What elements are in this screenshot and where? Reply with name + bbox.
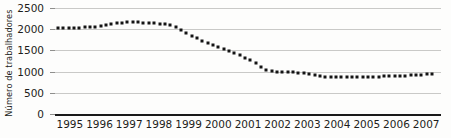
data-point (131, 20, 134, 23)
y-tick-mark-1000 (50, 72, 55, 73)
x-tick-label-1999: 1999 (175, 118, 202, 130)
data-point (345, 76, 348, 79)
y-tick-mark-2000 (50, 29, 55, 30)
y-tick-label-1500: 1500 (0, 44, 44, 56)
data-point (195, 37, 198, 40)
y-tick-label-0: 0 (0, 108, 44, 120)
data-point (174, 26, 177, 29)
data-point (105, 24, 108, 27)
data-point (356, 76, 359, 79)
gridline-2500 (55, 8, 441, 9)
data-point (222, 48, 225, 51)
data-point (329, 76, 332, 79)
x-tick-label-1996: 1996 (86, 118, 113, 130)
y-tick-label-2000: 2000 (0, 23, 44, 35)
data-point (276, 70, 279, 73)
x-tick-label-2007: 2007 (413, 118, 440, 130)
data-point (431, 72, 434, 75)
gridline-2000 (55, 29, 441, 30)
x-tick-label-1997: 1997 (116, 118, 143, 130)
data-point (67, 26, 70, 29)
data-point (281, 70, 284, 73)
data-point (121, 21, 124, 24)
data-point (324, 75, 327, 78)
data-point (217, 46, 220, 49)
data-point (115, 22, 118, 25)
y-tick-label-1000: 1000 (0, 66, 44, 78)
data-point (233, 52, 236, 55)
data-point (270, 70, 273, 73)
plot-area (55, 8, 441, 114)
x-axis-tick-labels: 1995199619971998199920002001200220032004… (55, 118, 441, 136)
data-point (158, 22, 161, 25)
data-point (350, 76, 353, 79)
data-point (56, 26, 59, 29)
data-point (366, 75, 369, 78)
data-point (409, 74, 412, 77)
data-point (94, 25, 97, 28)
data-point (308, 73, 311, 76)
data-point (377, 75, 380, 78)
y-tick-mark-0 (50, 114, 55, 115)
x-tick-label-2003: 2003 (294, 118, 321, 130)
x-tick-label-1995: 1995 (56, 118, 83, 130)
data-point (99, 25, 102, 28)
data-point (425, 73, 428, 76)
data-point (318, 75, 321, 78)
data-point (227, 50, 230, 53)
x-tick-label-1998: 1998 (146, 118, 173, 130)
data-point (73, 26, 76, 29)
data-point (388, 75, 391, 78)
x-tick-label-2002: 2002 (264, 118, 291, 130)
data-point (393, 75, 396, 78)
data-point (292, 71, 295, 74)
x-tick-label-2006: 2006 (383, 118, 410, 130)
data-point (190, 34, 193, 37)
data-point (185, 31, 188, 34)
data-point (260, 65, 263, 68)
data-point (126, 21, 129, 24)
y-axis-tick-labels: 05001000150020002500 (0, 8, 51, 114)
data-point (83, 26, 86, 29)
x-tick-label-2004: 2004 (324, 118, 351, 130)
data-point (137, 21, 140, 24)
data-point (147, 22, 150, 25)
data-point (142, 21, 145, 24)
data-point (254, 62, 257, 65)
data-point (286, 71, 289, 74)
data-point (238, 54, 241, 57)
data-point (361, 75, 364, 78)
data-point (302, 72, 305, 75)
data-point (206, 41, 209, 44)
data-point (297, 71, 300, 74)
gridline-1000 (55, 72, 441, 73)
data-point (265, 68, 268, 71)
data-point (110, 23, 113, 26)
data-point (169, 23, 172, 26)
data-point (340, 76, 343, 79)
x-tick-label-2000: 2000 (205, 118, 232, 130)
gridline-500 (55, 93, 441, 94)
data-point (334, 76, 337, 79)
data-point (372, 75, 375, 78)
y-tick-mark-2500 (50, 8, 55, 9)
y-tick-label-2500: 2500 (0, 2, 44, 14)
gridline-0 (55, 114, 441, 116)
data-point (62, 26, 65, 29)
data-point (153, 22, 156, 25)
data-point (420, 73, 423, 76)
data-point (78, 26, 81, 29)
data-point (399, 74, 402, 77)
data-point (382, 75, 385, 78)
data-point (249, 59, 252, 62)
y-tick-mark-1500 (50, 50, 55, 51)
data-point (415, 73, 418, 76)
data-point (201, 39, 204, 42)
data-point (211, 43, 214, 46)
data-point (313, 74, 316, 77)
y-tick-mark-500 (50, 93, 55, 94)
data-point (244, 56, 247, 59)
data-point (404, 74, 407, 77)
data-point (179, 28, 182, 31)
x-tick-label-2001: 2001 (235, 118, 262, 130)
